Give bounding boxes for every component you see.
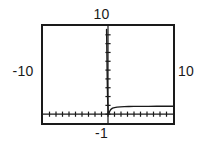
plot-frame: [41, 24, 175, 125]
x-max-label: 10: [178, 64, 202, 78]
y-max-label: 10: [0, 7, 203, 21]
x-min-label: -10: [6, 64, 40, 78]
plot-area: [43, 26, 173, 123]
calculator-screen: 10 -10 10 -1: [0, 0, 203, 147]
function-curve: [107, 30, 173, 115]
y-min-label: -1: [0, 126, 203, 140]
